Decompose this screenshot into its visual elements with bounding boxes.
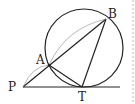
label-b: B — [108, 7, 117, 21]
label-p: P — [8, 80, 16, 94]
chord-at — [49, 65, 82, 87]
point-a-dot — [48, 64, 51, 67]
geometry-diagram: P A B T — [0, 0, 135, 104]
label-a: A — [35, 53, 45, 67]
label-t: T — [78, 90, 86, 104]
